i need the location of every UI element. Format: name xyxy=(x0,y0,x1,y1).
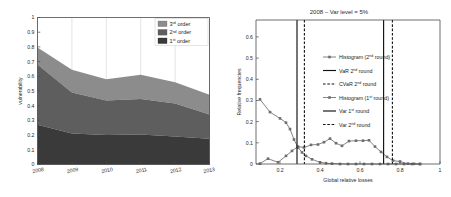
left-y-axis-label: vulnerability xyxy=(17,77,23,105)
left-legend-swatch-1st-order xyxy=(158,38,167,44)
right-ytick-02: 0.2 xyxy=(246,119,253,125)
right-ytick-06: 0.6 xyxy=(246,34,253,40)
left-legend-swatch-3rd-order xyxy=(158,21,167,27)
left-xtick-2012: 2012 xyxy=(169,166,182,174)
left-ytick-02: 0.2 xyxy=(27,132,34,138)
right-xtick-02: 0.2 xyxy=(276,167,283,173)
left-ytick-05: 0.5 xyxy=(27,88,34,94)
left-xtick-2013: 2013 xyxy=(203,166,216,174)
left-ytick-07: 0.7 xyxy=(27,59,34,65)
right-legend-label-var-2nd-b: Var 2nd round xyxy=(339,122,370,128)
right-ytick-05: 0.5 xyxy=(246,55,253,61)
left-legend: 3rd order 2nd order 1st order xyxy=(155,19,208,46)
right-y-axis-label: Relative frequencies xyxy=(236,68,242,115)
right-ytick-0: 0 xyxy=(250,161,253,167)
right-xtick-1: 1 xyxy=(439,167,442,173)
right-xtick-04: 0.4 xyxy=(316,167,323,173)
left-ytick-08: 0.8 xyxy=(27,44,34,50)
left-ytick-09: 0.9 xyxy=(27,29,34,35)
left-ytick-01: 0.1 xyxy=(27,147,34,153)
right-x-axis-label: Global relative losses xyxy=(323,177,373,183)
right-ytick-01: 0.1 xyxy=(246,140,253,146)
left-ytick-03: 0.3 xyxy=(27,117,34,123)
right-legend-label-histogram-2nd: Histogram (2nd round) xyxy=(339,54,390,60)
figure-container: 0 0.1 0.2 0.3 0.4 0.5 0.6 0.7 0.8 0.9 1 xyxy=(0,0,451,197)
right-chart-svg: 2008 – Var level = 5% xyxy=(226,0,451,197)
right-chart-title: 2008 – Var level = 5% xyxy=(310,9,369,15)
left-ytick-06: 0.6 xyxy=(27,73,34,79)
left-ytick-0: 0 xyxy=(32,161,35,167)
left-xtick-2009: 2009 xyxy=(66,166,79,174)
right-legend-label-histogram-1st: Histogram (1st round) xyxy=(339,95,389,101)
left-legend-label-1st-order: 1st order xyxy=(170,38,191,44)
right-xtick-08: 0.8 xyxy=(396,167,403,173)
left-xtick-2008: 2008 xyxy=(32,166,45,174)
left-chart-panel: 0 0.1 0.2 0.3 0.4 0.5 0.6 0.7 0.8 0.9 1 xyxy=(0,0,226,197)
right-ytick-04: 0.4 xyxy=(246,76,253,82)
left-xtick-2011: 2011 xyxy=(135,166,147,174)
right-ytick-03: 0.3 xyxy=(246,97,253,103)
right-chart-panel: 2008 – Var level = 5% xyxy=(226,0,451,197)
left-ytick-1: 1 xyxy=(32,14,35,20)
right-xtick-06: 0.6 xyxy=(356,167,363,173)
left-xtick-2010: 2010 xyxy=(101,166,114,174)
left-ytick-04: 0.4 xyxy=(27,103,34,109)
left-legend-swatch-2nd-order xyxy=(158,30,167,36)
left-chart-svg: 0 0.1 0.2 0.3 0.4 0.5 0.6 0.7 0.8 0.9 1 xyxy=(0,0,226,197)
right-legend-label-var-1st: Var 1st round xyxy=(339,108,369,114)
